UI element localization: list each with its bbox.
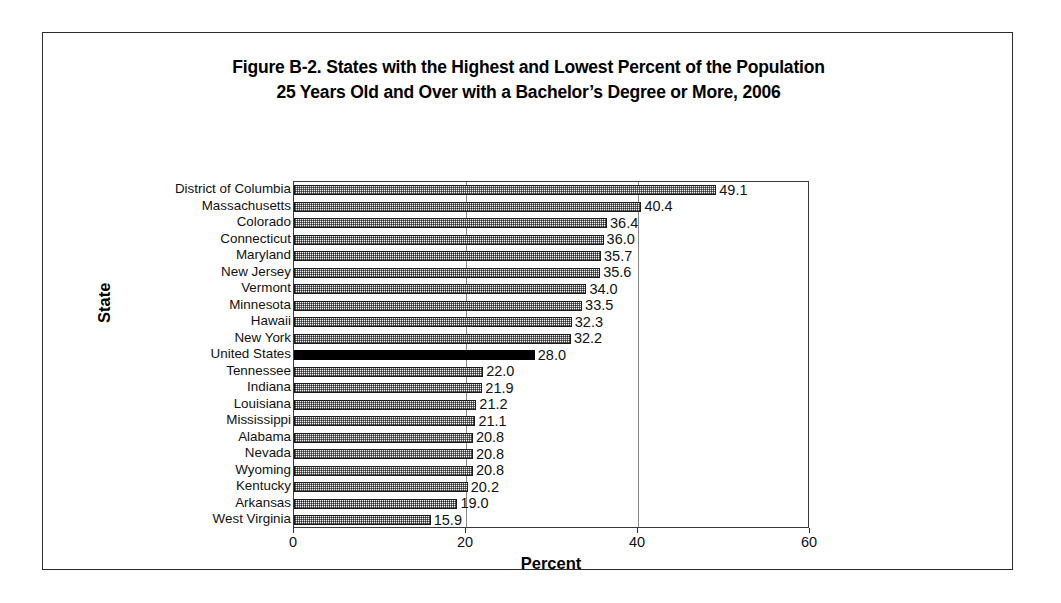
bar-row: 33.5 xyxy=(294,298,810,315)
bar xyxy=(294,235,604,245)
category-label: Kentucky xyxy=(61,478,291,495)
x-tick-label: 20 xyxy=(457,534,473,550)
bar-row: 34.0 xyxy=(294,281,810,298)
y-axis-category-labels: District of ColumbiaMassachusettsColorad… xyxy=(59,181,291,528)
bar-row: 19.0 xyxy=(294,496,810,513)
chart-title-line-1: Figure B-2. States with the Highest and … xyxy=(43,55,1014,80)
bar-value-label: 21.2 xyxy=(479,396,507,413)
category-label: Mississippi xyxy=(61,412,291,429)
bar xyxy=(294,433,473,443)
bar-value-label: 35.7 xyxy=(604,248,632,265)
bar-row: 21.9 xyxy=(294,380,810,397)
x-axis: 0204060 xyxy=(293,528,809,556)
bar-row: 15.9 xyxy=(294,512,810,529)
bar-row: 40.4 xyxy=(294,199,810,216)
bar xyxy=(294,301,582,311)
bar-row: 36.4 xyxy=(294,215,810,232)
bar-row: 21.2 xyxy=(294,397,810,414)
chart-title: Figure B-2. States with the Highest and … xyxy=(43,55,1014,105)
bar-row: 28.0 xyxy=(294,347,810,364)
category-label: New York xyxy=(61,330,291,347)
bar xyxy=(294,251,601,261)
bar xyxy=(294,515,431,525)
category-label: Maryland xyxy=(61,247,291,264)
bar-value-label: 22.0 xyxy=(486,363,514,380)
bar xyxy=(294,218,607,228)
category-label: West Virginia xyxy=(61,511,291,528)
category-label: Alabama xyxy=(61,429,291,446)
bar-row: 21.1 xyxy=(294,413,810,430)
bar-row: 20.2 xyxy=(294,479,810,496)
bar xyxy=(294,185,716,195)
bar-value-label: 20.2 xyxy=(471,479,499,496)
bar xyxy=(294,350,535,360)
bar-value-label: 36.0 xyxy=(607,231,635,248)
bar xyxy=(294,466,473,476)
bar xyxy=(294,202,641,212)
bar xyxy=(294,416,475,426)
bar xyxy=(294,383,482,393)
bar-value-label: 21.1 xyxy=(478,413,506,430)
x-tick-label: 60 xyxy=(801,534,817,550)
bar xyxy=(294,499,457,509)
bar-row: 35.6 xyxy=(294,265,810,282)
bar-value-label: 33.5 xyxy=(585,297,613,314)
category-label: Tennessee xyxy=(61,363,291,380)
category-label: Indiana xyxy=(61,379,291,396)
bar xyxy=(294,482,468,492)
bar xyxy=(294,284,586,294)
bar-value-label: 35.6 xyxy=(603,264,631,281)
category-label: Nevada xyxy=(61,445,291,462)
x-tick-label: 0 xyxy=(289,534,297,550)
category-label: District of Columbia xyxy=(61,181,291,198)
bar-row: 36.0 xyxy=(294,232,810,249)
x-tick-0 xyxy=(293,528,294,533)
bar-value-label: 20.8 xyxy=(476,446,504,463)
category-label: Connecticut xyxy=(61,231,291,248)
x-axis-title: Percent xyxy=(293,554,809,573)
category-label: Hawaii xyxy=(61,313,291,330)
category-label: New Jersey xyxy=(61,264,291,281)
category-label: Vermont xyxy=(61,280,291,297)
bar xyxy=(294,268,600,278)
plot-area: 49.140.436.436.035.735.634.033.532.332.2… xyxy=(293,181,809,528)
x-tick-20 xyxy=(465,528,466,533)
category-label: Arkansas xyxy=(61,495,291,512)
bar xyxy=(294,449,473,459)
bar-value-label: 19.0 xyxy=(460,495,488,512)
bar-value-label: 20.8 xyxy=(476,462,504,479)
chart-title-line-2: 25 Years Old and Over with a Bachelor’s … xyxy=(43,80,1014,105)
category-label: Colorado xyxy=(61,214,291,231)
bar-value-label: 15.9 xyxy=(434,512,462,529)
bar xyxy=(294,400,476,410)
bar-row: 32.3 xyxy=(294,314,810,331)
bar-row: 20.8 xyxy=(294,463,810,480)
bar xyxy=(294,367,483,377)
bar-value-label: 49.1 xyxy=(719,182,747,199)
bar-value-label: 32.2 xyxy=(574,330,602,347)
bar-row: 20.8 xyxy=(294,446,810,463)
bar xyxy=(294,317,572,327)
bar-value-label: 20.8 xyxy=(476,429,504,446)
x-tick-40 xyxy=(637,528,638,533)
bar-row: 32.2 xyxy=(294,331,810,348)
category-label: Minnesota xyxy=(61,297,291,314)
bar-value-label: 36.4 xyxy=(610,215,638,232)
category-label: Louisiana xyxy=(61,396,291,413)
figure-frame: Figure B-2. States with the Highest and … xyxy=(42,32,1013,570)
bar-row: 35.7 xyxy=(294,248,810,265)
bar-row: 20.8 xyxy=(294,430,810,447)
bar-value-label: 28.0 xyxy=(538,347,566,364)
bar xyxy=(294,334,571,344)
bar-value-label: 40.4 xyxy=(644,198,672,215)
category-label: Massachusetts xyxy=(61,198,291,215)
category-label: Wyoming xyxy=(61,462,291,479)
x-tick-60 xyxy=(809,528,810,533)
bar-row: 22.0 xyxy=(294,364,810,381)
bar-row: 49.1 xyxy=(294,182,810,199)
category-label: United States xyxy=(61,346,291,363)
x-tick-label: 40 xyxy=(629,534,645,550)
bar-value-label: 34.0 xyxy=(589,281,617,298)
bar-value-label: 32.3 xyxy=(575,314,603,331)
bar-value-label: 21.9 xyxy=(485,380,513,397)
